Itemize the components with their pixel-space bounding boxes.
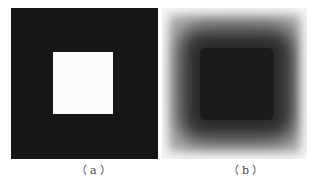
caption-b: （b） bbox=[228, 161, 266, 177]
blurred-dark-square bbox=[200, 48, 274, 120]
panel-b-image bbox=[162, 8, 307, 159]
panel-a-image bbox=[11, 8, 158, 159]
white-square bbox=[53, 52, 113, 114]
caption-a: （a） bbox=[76, 161, 114, 177]
figure: （a） （b） bbox=[0, 0, 313, 185]
